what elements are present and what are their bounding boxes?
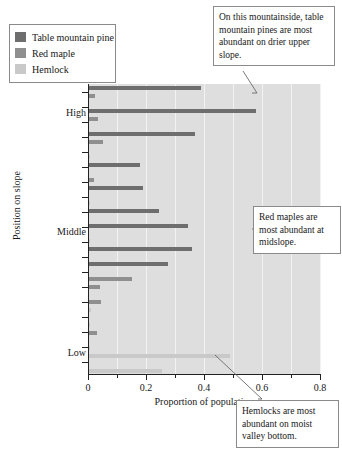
y-axis-tick-label: Low — [68, 347, 86, 359]
y-axis-tick — [82, 122, 88, 123]
bar — [88, 300, 101, 304]
callout-maple: Red maples are most abundant at midslope… — [253, 206, 341, 254]
legend-swatch-pine — [15, 32, 26, 42]
y-axis-tick — [82, 197, 88, 198]
bar — [88, 224, 188, 228]
gridline — [233, 84, 234, 374]
bar — [88, 369, 162, 373]
y-axis-tick-label: Middle — [57, 226, 86, 238]
y-axis-tick — [82, 242, 88, 243]
gridline — [117, 84, 118, 374]
bar — [88, 262, 168, 266]
y-axis-tick — [82, 92, 88, 93]
x-axis-tick — [88, 374, 89, 380]
bar — [88, 209, 159, 213]
y-axis-tick — [82, 317, 88, 318]
bar — [88, 331, 97, 335]
y-axis-line — [88, 84, 89, 375]
x-axis-tick-label: 0.6 — [247, 382, 277, 394]
bar — [88, 285, 100, 289]
callout-pine: On this mountainside, table mountain pin… — [213, 6, 335, 66]
legend-item-hemlock: Hemlock — [15, 61, 110, 77]
y-axis-tick — [82, 212, 88, 213]
y-axis-tick — [82, 272, 88, 273]
y-axis-tick — [82, 182, 88, 183]
y-axis-tick — [82, 302, 88, 303]
x-axis-tick — [204, 374, 205, 380]
gridline — [175, 84, 176, 374]
x-axis-tick — [291, 374, 292, 378]
legend-label-maple: Red maple — [32, 48, 75, 59]
x-axis-tick — [320, 374, 321, 380]
y-axis-title: Position on slope — [11, 146, 22, 266]
x-axis-tick — [262, 374, 263, 380]
y-axis-tick — [82, 137, 88, 138]
x-axis-tick-label: 0.8 — [305, 382, 335, 394]
bar — [88, 117, 98, 121]
bar — [88, 277, 132, 281]
y-axis-tick — [82, 332, 88, 333]
legend-swatch-maple — [15, 48, 26, 58]
y-axis-tick — [82, 362, 88, 363]
bar — [88, 186, 143, 190]
legend-item-pine: Table mountain pine — [15, 29, 110, 45]
bar — [88, 94, 95, 98]
legend-swatch-hemlock — [15, 64, 26, 74]
y-axis-tick — [82, 287, 88, 288]
y-axis-tick-label: High — [66, 107, 86, 119]
gridline — [204, 84, 205, 374]
x-axis-tick — [175, 374, 176, 378]
x-axis-tick — [146, 374, 147, 380]
bar — [88, 354, 230, 358]
bar — [88, 163, 140, 167]
x-axis-tick-label: 0 — [73, 382, 103, 394]
gridline — [146, 84, 147, 374]
bar — [88, 132, 195, 136]
x-axis-tick-label: 0.2 — [131, 382, 161, 394]
x-axis-tick — [117, 374, 118, 378]
legend-item-maple: Red maple — [15, 45, 110, 61]
legend-label-pine: Table mountain pine — [32, 32, 114, 43]
bar — [88, 86, 201, 90]
chart-legend: Table mountain pine Red maple Hemlock — [9, 24, 116, 83]
y-axis-tick — [82, 257, 88, 258]
x-axis-tick — [233, 374, 234, 378]
bar — [88, 247, 192, 251]
x-axis-tick-label: 0.4 — [189, 382, 219, 394]
y-axis-tick — [82, 167, 88, 168]
y-axis-tick — [82, 152, 88, 153]
bar — [88, 140, 103, 144]
callout-hemlock: Hemlocks are most abundant on moist vall… — [236, 400, 339, 448]
legend-label-hemlock: Hemlock — [32, 64, 69, 75]
bar — [88, 109, 256, 113]
